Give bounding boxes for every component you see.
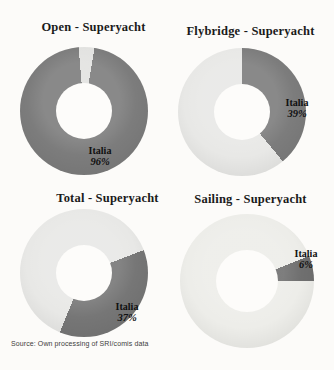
chart-open-superyacht: Open - Superyacht Italia 96% — [0, 0, 167, 185]
donut-chart: Italia 37% — [20, 209, 148, 337]
chart-title: Sailing - Superyacht — [167, 192, 334, 207]
source-note: Source: Own processing of SRI/comis data — [11, 340, 148, 347]
callout-value-label: 37% — [116, 312, 139, 324]
callout-value-label: 6% — [295, 259, 318, 271]
donut-hole — [56, 83, 112, 139]
donut-chart: Italia 6% — [180, 214, 314, 348]
chart-title: Open - Superyacht — [0, 20, 177, 35]
superyacht-donut-figure: Open - Superyacht Italia 96% Flybridge -… — [0, 0, 334, 370]
donut-hole — [56, 245, 112, 301]
callout-value-label: 39% — [286, 108, 309, 120]
chart-flybridge-superyacht: Flybridge - Superyacht Italia 39% — [167, 0, 334, 185]
chart-sailing-superyacht: Sailing - Superyacht Italia 6% — [167, 185, 334, 370]
donut-hole — [216, 250, 278, 312]
donut-chart: Italia 39% — [178, 48, 306, 176]
slice-callout: Italia 37% — [116, 301, 139, 324]
chart-grid: Open - Superyacht Italia 96% Flybridge -… — [0, 0, 334, 370]
slice-callout: Italia 39% — [286, 97, 309, 120]
chart-title: Flybridge - Superyacht — [167, 24, 334, 39]
callout-series-label: Italia — [286, 97, 309, 108]
donut-hole — [214, 84, 270, 140]
callout-series-label: Italia — [89, 145, 112, 156]
chart-title: Total - Superyacht — [0, 191, 191, 206]
callout-series-label: Italia — [295, 248, 318, 259]
slice-callout: Italia 96% — [89, 145, 112, 168]
callout-series-label: Italia — [116, 301, 139, 312]
slice-callout: Italia 6% — [295, 248, 318, 271]
donut-chart: Italia 96% — [20, 47, 148, 175]
callout-value-label: 96% — [89, 156, 112, 168]
